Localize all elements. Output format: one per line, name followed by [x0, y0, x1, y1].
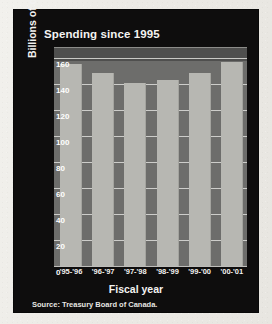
x-axis-tick-label: '98-'99	[152, 267, 184, 276]
y-axis-tick-label: 140	[56, 86, 69, 95]
y-axis-title: Billions of dollars	[26, 0, 40, 94]
bar	[157, 80, 179, 266]
plot-background: 020406080100120140160	[54, 47, 247, 266]
chart-card: Spending since 1995 Billions of dollars …	[14, 10, 258, 312]
y-axis-tick-label: 20	[56, 242, 65, 251]
bar-series	[54, 48, 247, 266]
y-axis-tick-label: 100	[56, 138, 69, 147]
y-axis-tick-label: 160	[56, 60, 69, 69]
x-axis-tick-label: '95-'96	[55, 267, 87, 276]
x-axis-title: Fiscal year	[14, 283, 258, 295]
bar	[124, 83, 146, 266]
x-axis-tick-label: '97-'98	[119, 267, 151, 276]
x-axis-tick-label: '96-'97	[87, 267, 119, 276]
y-axis-tick-label: 120	[56, 112, 69, 121]
bar	[189, 73, 211, 266]
page-background: Spending since 1995 Billions of dollars …	[0, 0, 272, 324]
bar	[92, 73, 114, 266]
plot-area: 020406080100120140160	[54, 47, 247, 265]
bar	[221, 62, 243, 266]
x-axis-tick-label: '99-'00	[184, 267, 216, 276]
y-axis-tick-label: 60	[56, 190, 65, 199]
y-axis-tick-label: 80	[56, 164, 65, 173]
source-note: Source: Treasury Board of Canada.	[32, 300, 157, 309]
y-axis-tick-label: 40	[56, 216, 65, 225]
x-axis-tick-labels: '95-'96'96-'97'97-'98'98-'99'99-'00'00-'…	[54, 267, 249, 280]
page-title: Spending since 1995	[44, 28, 160, 40]
x-axis-tick-label: '00-'01	[216, 267, 248, 276]
